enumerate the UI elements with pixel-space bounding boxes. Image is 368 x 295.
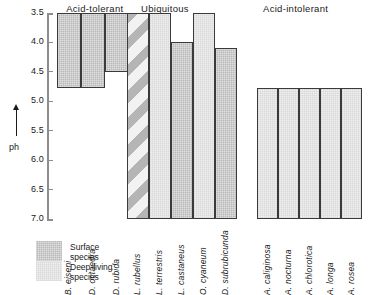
bar bbox=[215, 48, 237, 219]
y-axis-tick-label: 6.0 bbox=[4, 154, 44, 164]
bar bbox=[171, 42, 193, 219]
bar bbox=[149, 13, 171, 219]
y-axis-tick bbox=[47, 160, 53, 161]
species-label: A. nocturna bbox=[283, 249, 293, 295]
y-axis-tick-label: 7.0 bbox=[4, 213, 44, 223]
group-title: Acid-intolerant bbox=[0, 3, 368, 14]
legend-label-surface: Surfacespecies bbox=[70, 242, 99, 262]
species-label: D. subrubicunda bbox=[220, 230, 230, 295]
y-axis-tick-label: 6.5 bbox=[4, 184, 44, 194]
species-label: A. chlorotica bbox=[304, 246, 314, 295]
y-axis-tick-label: 4.0 bbox=[4, 36, 44, 46]
bar bbox=[105, 13, 129, 72]
ph-up-arrow-icon bbox=[16, 108, 17, 136]
bar bbox=[257, 88, 278, 219]
bar bbox=[299, 88, 320, 219]
bar bbox=[320, 88, 341, 219]
bar bbox=[127, 13, 149, 219]
legend-label-line2: species bbox=[70, 252, 99, 262]
species-label: A. caliginosa bbox=[262, 244, 272, 295]
y-axis-label: ph bbox=[9, 142, 19, 152]
bar bbox=[341, 88, 362, 219]
bar bbox=[81, 13, 105, 88]
y-axis-tick-label: 5.0 bbox=[4, 95, 44, 105]
legend-swatch-deep bbox=[36, 261, 62, 281]
y-axis-tick bbox=[47, 219, 53, 221]
ph-tolerance-chart: 3.54.04.55.05.56.06.57.0 ph Acid-toleran… bbox=[0, 0, 368, 295]
species-label: A. longa bbox=[325, 262, 335, 295]
legend-swatch-surface bbox=[36, 241, 62, 261]
species-label: L. terrestris bbox=[154, 250, 164, 295]
y-axis-tick bbox=[47, 189, 53, 190]
y-axis-tick bbox=[47, 42, 53, 43]
bar bbox=[193, 13, 215, 219]
species-label: L. castaneus bbox=[176, 244, 186, 295]
y-axis-tick bbox=[47, 71, 53, 72]
y-axis-tick-label: 4.5 bbox=[4, 66, 44, 76]
bar bbox=[278, 88, 299, 219]
legend-label-deep: Deep-livingspecies bbox=[70, 262, 113, 282]
y-axis-tick bbox=[47, 101, 53, 102]
species-label: O. cyaneum bbox=[198, 247, 208, 295]
species-label: L. rubellus bbox=[132, 254, 142, 295]
y-axis-tick-label: 5.5 bbox=[4, 125, 44, 135]
bar bbox=[57, 13, 81, 88]
legend-label-line1: Surface bbox=[70, 242, 99, 252]
y-axis-tick bbox=[47, 130, 53, 131]
species-label: A. rosea bbox=[346, 262, 356, 295]
legend-label-line2: species bbox=[70, 272, 113, 282]
legend-label-line1: Deep-living bbox=[70, 262, 113, 272]
